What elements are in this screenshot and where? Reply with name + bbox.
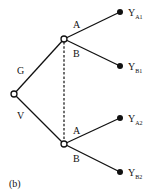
leaf-node-a2 — [117, 115, 123, 121]
leaf-label-a1: YA1 — [128, 7, 143, 20]
upper-label-a: A — [73, 19, 81, 30]
tree-diagram: G V A B A B YA1 YB1 YA2 YB2 (b) — [0, 0, 153, 193]
root-node — [11, 91, 17, 97]
upper-node — [61, 36, 67, 42]
upper-label-b: B — [73, 48, 80, 59]
lower-label-b: B — [73, 153, 80, 164]
root-label-g: G — [17, 65, 24, 76]
leaf-node-b2 — [117, 169, 123, 175]
lower-label-a: A — [73, 125, 81, 136]
leaf-label-b1: YB1 — [128, 61, 142, 74]
panel-label: (b) — [9, 178, 21, 190]
leaf-node-b1 — [117, 63, 123, 69]
leaf-label-a2: YA2 — [128, 113, 143, 126]
root-label-v: V — [17, 110, 25, 121]
leaf-node-a1 — [117, 9, 123, 15]
lower-node — [61, 141, 67, 147]
leaf-label-b2: YB2 — [128, 167, 142, 180]
